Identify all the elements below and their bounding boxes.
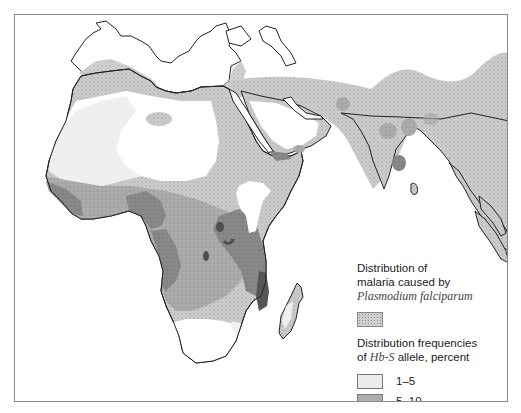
- malaria-patch-sahara: [146, 112, 172, 126]
- hbs-5-10-oman: [293, 145, 305, 153]
- hbs-15-20-patch-1: [216, 222, 224, 232]
- legend-hbs-gene: Hb-S: [370, 350, 395, 364]
- sri-lanka: [411, 183, 418, 194]
- hbs-15-20-patch-3: [203, 251, 209, 261]
- southern-africa-white: [171, 319, 241, 363]
- legend-class-1-5: 1–5: [357, 371, 508, 391]
- legend-hbs-title: Distribution frequencies of Hb-S allele,…: [357, 336, 508, 364]
- legend-label-1-5: 1–5: [396, 374, 415, 388]
- legend-hbs-prefix: of: [357, 351, 370, 363]
- legend-malaria-title: Distribution of malaria caused by Plasmo…: [357, 261, 508, 303]
- hbs-1-5-bengal: [423, 113, 439, 125]
- hbs-5-10-pakistan: [336, 97, 350, 111]
- legend-label-5-10: 5–10: [396, 394, 422, 402]
- legend-malaria-swatch: [357, 312, 383, 327]
- legend-hbs-title-line1: Distribution frequencies: [357, 336, 508, 350]
- hbs-10-15-india-3: [392, 155, 406, 171]
- caspian-sea: [259, 26, 296, 66]
- legend-swatch-5-10: [357, 394, 383, 403]
- hbs-5-10-india-2: [401, 118, 417, 136]
- map-legend: Distribution of malaria caused by Plasmo…: [357, 261, 508, 402]
- legend-swatch-1-5: [357, 374, 383, 389]
- map-frame: Distribution of malaria caused by Plasmo…: [14, 14, 508, 402]
- legend-hbs-suffix: allele, percent: [394, 351, 469, 363]
- legend-hbs-title-line2: of Hb-S allele, percent: [357, 350, 508, 364]
- hbs-5-10-india-1: [379, 123, 397, 139]
- legend-malaria-title-line1: Distribution of: [357, 261, 508, 275]
- black-sea: [226, 26, 251, 46]
- legend-malaria-species: Plasmodium falciparum: [357, 289, 508, 303]
- legend-malaria-title-line2: malaria caused by: [357, 275, 508, 289]
- legend-class-5-10: 5–10: [357, 391, 508, 402]
